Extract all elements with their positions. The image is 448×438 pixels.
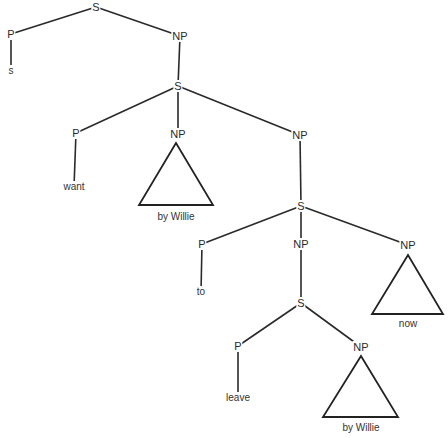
tree-edge-s3-p3 — [202, 206, 301, 244]
tree-edge-s2-p2 — [76, 86, 178, 133]
leaf-label-leaf_want: want — [62, 181, 85, 193]
node-label-np2: NP — [169, 128, 186, 140]
triangle-icon — [139, 143, 213, 205]
tree-edge-s1-p1 — [11, 7, 96, 34]
node-label-np6: NP — [352, 341, 369, 353]
tree-edge-s4-p4 — [238, 303, 301, 346]
tree-edge-p2-leaf_want — [74, 133, 76, 187]
triangle-icon — [372, 255, 443, 314]
tree-edge-s3-np5 — [301, 206, 408, 245]
node-label-s2: S — [173, 80, 182, 92]
triangle-icon — [323, 356, 398, 417]
tree-edge-s2-np3 — [178, 86, 300, 135]
leaf-label-leaf_to: to — [196, 286, 206, 298]
tree-edge-s1-np1 — [96, 7, 180, 36]
leaf-label-leaf_leave: leave — [225, 392, 251, 404]
node-label-s1: S — [91, 1, 100, 13]
tree-edges — [11, 7, 408, 398]
tree-edge-np1-s2 — [178, 36, 180, 86]
node-label-np1: NP — [171, 30, 188, 42]
syntax-tree-canvas — [0, 0, 448, 438]
leaf-label-leaf_s: s — [8, 65, 15, 77]
tree-triangles — [139, 143, 443, 417]
leaf-label-leaf_bywillie1: by Willie — [156, 211, 195, 223]
node-label-p2: P — [71, 127, 80, 139]
node-label-np5: NP — [399, 239, 416, 251]
node-label-s3: S — [296, 200, 305, 212]
node-label-s4: S — [296, 297, 305, 309]
node-label-np3: NP — [291, 129, 308, 141]
leaf-label-leaf_bywillie2: by Willie — [341, 422, 380, 434]
tree-edge-p3-leaf_to — [201, 244, 202, 292]
leaf-label-leaf_now: now — [398, 318, 418, 330]
node-label-np4: NP — [292, 238, 309, 250]
node-label-p1: P — [6, 28, 15, 40]
node-label-p3: P — [197, 238, 206, 250]
node-label-p4: P — [233, 340, 242, 352]
tree-edge-np3-s3 — [300, 135, 301, 206]
